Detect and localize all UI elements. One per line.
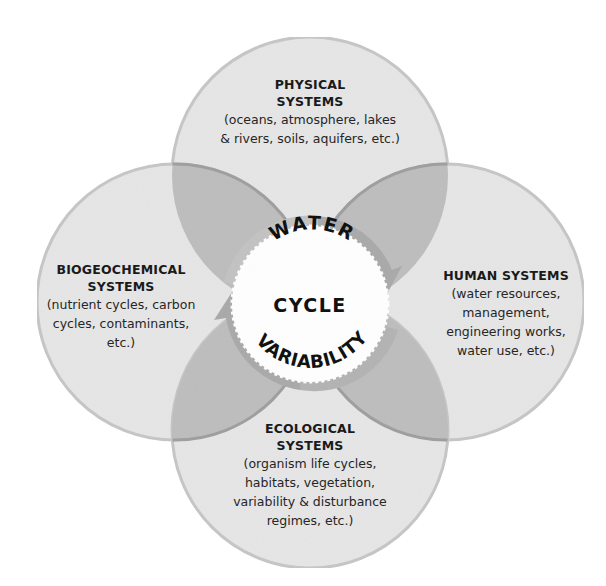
desc-line: water use, etc.) (416, 341, 596, 360)
node-ecological-description: (organism life cycles, habitats, vegetat… (195, 454, 425, 530)
title-line: SYSTEMS (28, 278, 214, 295)
desc-line: (oceans, atmosphere, lakes (180, 110, 440, 129)
title-line: SYSTEMS (180, 93, 440, 110)
desc-line: management, (416, 303, 596, 322)
title-line: BIOGEOCHEMICAL (28, 261, 214, 278)
desc-line: & rivers, soils, aquifers, etc.) (180, 129, 440, 148)
node-physical-description: (oceans, atmosphere, lakes & rivers, soi… (180, 110, 440, 148)
title-line: HUMAN SYSTEMS (416, 267, 596, 284)
desc-line: cycles, contaminants, (28, 314, 214, 333)
node-human-description: (water resources, management, engineerin… (416, 284, 596, 360)
desc-line: (water resources, (416, 284, 596, 303)
node-human-title: HUMAN SYSTEMS (416, 267, 596, 284)
node-biogeochemical-title: BIOGEOCHEMICAL SYSTEMS (28, 261, 214, 295)
desc-line: habitats, vegetation, (195, 473, 425, 492)
desc-line: etc.) (28, 333, 214, 352)
node-human: HUMAN SYSTEMS (water resources, manageme… (416, 267, 596, 360)
desc-line: engineering works, (416, 322, 596, 341)
title-line: ECOLOGICAL (195, 420, 425, 437)
node-ecological-title: ECOLOGICAL SYSTEMS (195, 420, 425, 454)
desc-line: (organism life cycles, (195, 454, 425, 473)
center-word-cycle: CYCLE (273, 294, 347, 316)
desc-line: regimes, etc.) (195, 511, 425, 530)
node-physical: PHYSICAL SYSTEMS (oceans, atmosphere, la… (180, 76, 440, 148)
node-biogeochemical-description: (nutrient cycles, carbon cycles, contami… (28, 295, 214, 352)
node-biogeochemical: BIOGEOCHEMICAL SYSTEMS (nutrient cycles,… (28, 261, 214, 352)
title-line: PHYSICAL (180, 76, 440, 93)
node-physical-title: PHYSICAL SYSTEMS (180, 76, 440, 110)
title-line: SYSTEMS (195, 437, 425, 454)
node-ecological: ECOLOGICAL SYSTEMS (organism life cycles… (195, 420, 425, 530)
desc-line: (nutrient cycles, carbon (28, 295, 214, 314)
desc-line: variability & disturbance (195, 492, 425, 511)
